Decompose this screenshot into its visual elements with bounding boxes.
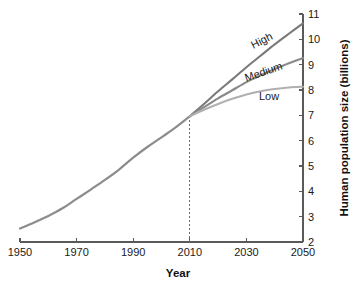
chart-container: 195019701990201020302050 234567891011 Hi… [0,0,356,283]
series-line-high [190,23,303,116]
series-line-historical [20,116,190,228]
y-axis-ticks [299,14,303,242]
y-tick-label: 10 [308,33,320,45]
y-axis-title: Human population size (billions) [338,39,350,216]
y-tick-label: 3 [308,211,314,223]
x-axis: 195019701990201020302050 [8,238,315,258]
y-tick-label: 11 [308,8,319,20]
x-tick-label: 2010 [178,246,202,258]
y-tick-label: 9 [308,59,314,71]
y-tick-label: 7 [308,109,314,121]
y-tick-label: 8 [308,84,314,96]
chart-series [20,23,303,228]
y-tick-label: 5 [308,160,314,172]
population-projection-chart: 195019701990201020302050 234567891011 Hi… [0,0,356,283]
x-tick-label: 1970 [64,246,88,258]
x-tick-label: 2030 [234,246,258,258]
y-axis-tick-labels: 234567891011 [308,8,320,248]
y-axis: 234567891011 [299,8,320,248]
x-tick-label: 1950 [8,246,32,258]
series-label-low: Low [259,90,279,102]
y-tick-label: 4 [308,185,314,197]
x-tick-label: 1990 [121,246,145,258]
y-tick-label: 2 [308,236,314,248]
x-axis-tick-labels: 195019701990201020302050 [8,246,315,258]
series-label-medium: Medium [243,59,284,83]
x-axis-title: Year [166,267,191,279]
y-tick-label: 6 [308,135,314,147]
x-axis-ticks [20,238,303,242]
